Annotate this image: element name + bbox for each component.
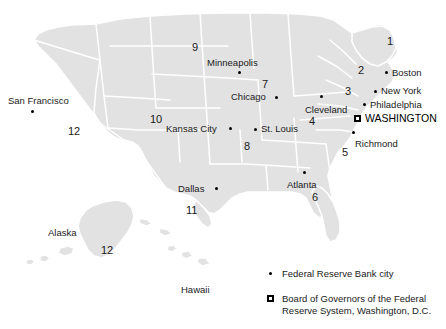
aleutian-island-2 — [26, 259, 35, 265]
district-number-12: 12 — [68, 126, 80, 137]
city-label-new-york: New York — [381, 86, 421, 96]
alaska-district-number: 12 — [101, 245, 113, 256]
city-label-kansas-city: Kansas City — [166, 124, 217, 134]
district-number-1: 1 — [387, 36, 393, 47]
inset-label-hawaii: Hawaii — [181, 285, 210, 295]
legend-dot-icon — [269, 272, 272, 275]
capital-label-washington: WASHINGTON — [365, 113, 437, 124]
aleutian-island-1 — [40, 255, 50, 262]
city-label-chicago: Chicago — [231, 92, 266, 102]
board-of-governors-marker — [354, 115, 361, 122]
city-label-dallas: Dallas — [178, 184, 204, 194]
legend-item-bank-city: Federal Reserve Bank city — [266, 268, 446, 280]
district-number-9: 9 — [192, 42, 198, 53]
legend-label-bank-city: Federal Reserve Bank city — [282, 268, 446, 280]
district-number-4: 4 — [309, 116, 315, 127]
inset-label-alaska: Alaska — [48, 228, 77, 238]
hawaii-island-1 — [167, 245, 177, 252]
city-label-atlanta: Atlanta — [287, 180, 317, 190]
district-number-3: 3 — [345, 86, 351, 97]
city-label-philadelphia: Philadelphia — [370, 100, 422, 110]
district-number-2: 2 — [358, 65, 364, 76]
hawaii-inset — [167, 245, 210, 266]
legend-label-board-line1: Board of Governors of the Federal — [282, 293, 446, 305]
district-number-6: 6 — [312, 192, 318, 203]
district-number-7: 7 — [262, 79, 268, 90]
district-number-8: 8 — [244, 141, 250, 152]
hawaii-island-3 — [197, 258, 210, 266]
hawaii-island-2 — [181, 251, 193, 259]
alaska-island-east — [139, 218, 152, 226]
alaska-island-east-2 — [159, 228, 172, 236]
alaska-peninsula — [58, 246, 74, 256]
legend-item-board-of-governors: Board of Governors of the Federal Reserv… — [266, 293, 446, 317]
district-number-5: 5 — [342, 147, 348, 158]
city-label-richmond: Richmond — [355, 139, 398, 149]
city-label-st-louis: St. Louis — [261, 124, 298, 134]
legend-label-board-line2: Reserve System, Washington, D.C. — [282, 305, 446, 317]
city-label-san-francisco: San Francisco — [8, 96, 69, 106]
federal-reserve-districts-map: San Francisco Minneapolis Chicago Kansas… — [0, 0, 446, 329]
district-number-11: 11 — [186, 205, 197, 216]
map-legend: Federal Reserve Bank city Board of Gover… — [266, 268, 446, 317]
city-label-boston: Boston — [392, 68, 422, 78]
legend-square-icon — [267, 295, 274, 302]
district-number-10: 10 — [150, 114, 162, 125]
city-label-minneapolis: Minneapolis — [207, 58, 258, 68]
city-label-cleveland: Cleveland — [305, 105, 347, 115]
